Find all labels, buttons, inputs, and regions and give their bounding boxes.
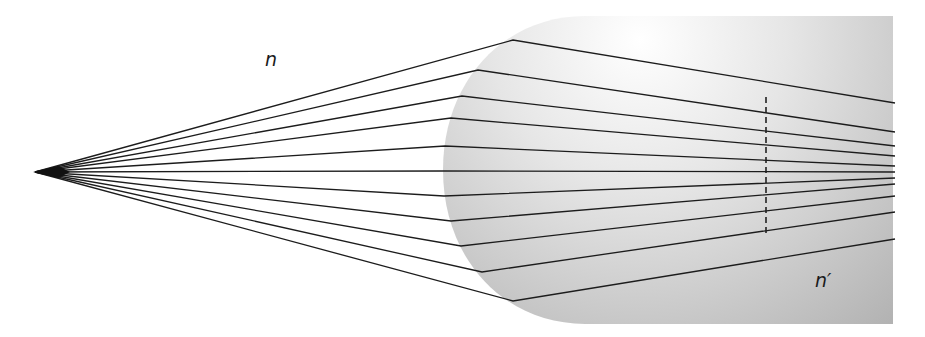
refracting-medium-label-n-prime: n′	[815, 271, 831, 290]
spherical-aberration-diagram	[0, 0, 925, 337]
incident-medium-label-n: n	[265, 50, 277, 69]
